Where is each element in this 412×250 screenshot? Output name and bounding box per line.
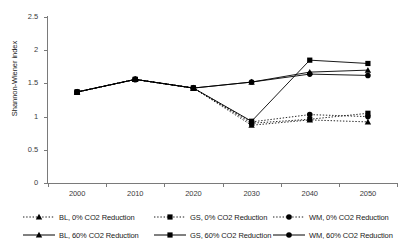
data-point-wm_60-2030 bbox=[249, 79, 255, 85]
series-line-gs_60 bbox=[77, 60, 368, 121]
series-bl_0 bbox=[74, 76, 371, 128]
legend-marker-circle-icon bbox=[286, 232, 292, 238]
legend-marker-square-icon bbox=[167, 232, 172, 237]
data-point-wm_60-2010 bbox=[132, 77, 138, 83]
legend-sample-icon bbox=[153, 229, 187, 241]
legend-entry-wm_0[interactable]: WM, 0% CO2 Reduction bbox=[272, 208, 389, 226]
series-bl_60 bbox=[74, 67, 371, 95]
legend-label: WM, 60% CO2 Reduction bbox=[306, 231, 393, 240]
data-point-wm_60-2000 bbox=[74, 89, 80, 95]
series-gs_60 bbox=[74, 58, 370, 124]
data-point-gs_0-2040 bbox=[307, 117, 312, 122]
chart-legend: BL, 0% CO2 ReductionGS, 0% CO2 Reduction… bbox=[0, 206, 412, 250]
legend-label: BL, 0% CO2 Reduction bbox=[56, 213, 135, 222]
data-point-gs_60-2040 bbox=[307, 58, 312, 63]
legend-label: GS, 0% CO2 Reduction bbox=[187, 213, 267, 222]
data-point-wm_60-2020 bbox=[191, 85, 197, 91]
data-point-gs_60-2050 bbox=[365, 61, 370, 66]
legend-sample-icon bbox=[22, 229, 56, 241]
legend-sample-icon bbox=[272, 229, 306, 241]
series-line-bl_0 bbox=[77, 79, 368, 125]
legend-marker-circle-icon bbox=[286, 214, 292, 220]
series-wm_60 bbox=[74, 71, 370, 95]
series-line-gs_0 bbox=[77, 79, 368, 123]
legend-entry-wm_60[interactable]: WM, 60% CO2 Reduction bbox=[272, 226, 393, 244]
legend-label: GS, 60% CO2 Reduction bbox=[187, 231, 271, 240]
series-line-wm_60 bbox=[77, 74, 368, 92]
data-point-gs_60-2030 bbox=[249, 119, 254, 124]
legend-entry-bl_0[interactable]: BL, 0% CO2 Reduction bbox=[22, 208, 135, 226]
chart-series-layer bbox=[0, 0, 412, 200]
series-line-wm_0 bbox=[77, 79, 368, 121]
shannon-wiener-index-chart: Shannon-Wiener index 00.511.522.5 200020… bbox=[0, 0, 412, 250]
data-point-wm_0-2050 bbox=[365, 114, 371, 120]
legend-entry-bl_60[interactable]: BL, 60% CO2 Reduction bbox=[22, 226, 139, 244]
legend-sample-icon bbox=[22, 211, 56, 223]
legend-label: WM, 0% CO2 Reduction bbox=[306, 213, 389, 222]
series-gs_0 bbox=[74, 77, 370, 126]
data-point-wm_0-2040 bbox=[307, 112, 313, 118]
legend-sample-icon bbox=[272, 211, 306, 223]
legend-entry-gs_60[interactable]: GS, 60% CO2 Reduction bbox=[153, 226, 271, 244]
series-line-bl_60 bbox=[77, 70, 368, 92]
legend-row-1: BL, 60% CO2 ReductionGS, 60% CO2 Reducti… bbox=[0, 226, 412, 244]
legend-sample-icon bbox=[153, 211, 187, 223]
data-point-wm_60-2040 bbox=[307, 71, 313, 77]
legend-row-0: BL, 0% CO2 ReductionGS, 0% CO2 Reduction… bbox=[0, 208, 412, 226]
data-point-wm_60-2050 bbox=[365, 73, 371, 79]
legend-entry-gs_0[interactable]: GS, 0% CO2 Reduction bbox=[153, 208, 267, 226]
legend-label: BL, 60% CO2 Reduction bbox=[56, 231, 139, 240]
legend-marker-square-icon bbox=[167, 214, 172, 219]
